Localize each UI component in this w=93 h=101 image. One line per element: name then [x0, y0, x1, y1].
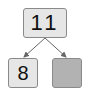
part-value-left: 8	[17, 62, 28, 85]
whole-box: 11	[23, 8, 67, 38]
arrow-to-left-part	[24, 38, 45, 57]
whole-value: 11	[31, 10, 60, 36]
part-box-left: 8	[8, 58, 38, 88]
arrow-to-right-part	[45, 38, 66, 57]
part-box-right-blank[interactable]	[52, 58, 82, 88]
